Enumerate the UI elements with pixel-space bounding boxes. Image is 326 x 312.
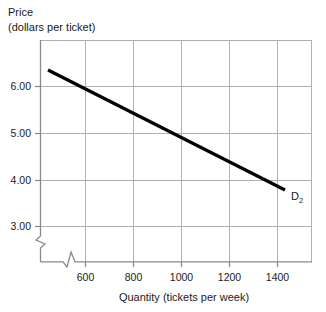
xtick-label-1200: 1200 bbox=[218, 271, 242, 283]
y-axis-title-units: (dollars per ticket) bbox=[8, 21, 95, 33]
ytick-label-6: 6.00 bbox=[11, 80, 32, 92]
xtick-label-800: 800 bbox=[125, 271, 143, 283]
x-axis-ticks bbox=[86, 262, 278, 267]
ytick-label-5: 5.00 bbox=[11, 127, 32, 139]
xtick-label-600: 600 bbox=[77, 271, 95, 283]
x-axis-title: Quantity (tickets per week) bbox=[119, 291, 249, 303]
plot-area-background bbox=[40, 40, 312, 262]
curve-label-subscript: 2 bbox=[299, 196, 303, 205]
curve-label-d: D bbox=[291, 190, 299, 202]
ytick-label-3: 3.00 bbox=[11, 220, 32, 232]
chart-container: 6.00 5.00 4.00 3.00 600 800 1000 1200 14… bbox=[0, 0, 326, 312]
xtick-label-1000: 1000 bbox=[170, 271, 194, 283]
y-axis-ticks bbox=[35, 87, 40, 227]
y-axis-title-name: Price bbox=[8, 6, 33, 18]
xtick-label-1400: 1400 bbox=[266, 271, 290, 283]
ytick-label-4: 4.00 bbox=[11, 174, 32, 186]
demand-curve-chart: 6.00 5.00 4.00 3.00 600 800 1000 1200 14… bbox=[0, 0, 326, 312]
